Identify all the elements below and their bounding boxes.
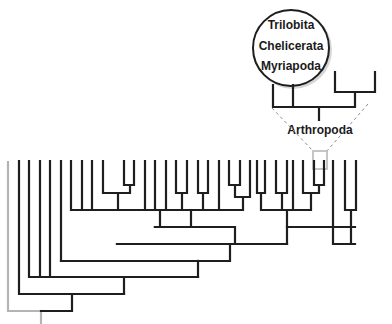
bubble-label-trilobita: Trilobita [268,18,315,32]
phylogeny-diagram: Trilobita Chelicerata Myriapoda Arthropo… [0,0,392,324]
clade-middle [190,161,250,210]
main-tree [19,161,356,311]
bubble-label-myriapoda: Myriapoda [261,59,321,73]
inset-clade: Trilobita Chelicerata Myriapoda Arthropo… [253,10,375,152]
bubble-label-chelicerata: Chelicerata [259,39,324,53]
clade-left-nested [103,161,134,210]
node-261 [61,244,230,261]
clade-far-right [333,161,356,244]
clade-left-tips [145,161,191,210]
outgroup-branch [8,161,41,311]
node-244-right [155,227,355,244]
clade-right-middle [257,161,324,227]
